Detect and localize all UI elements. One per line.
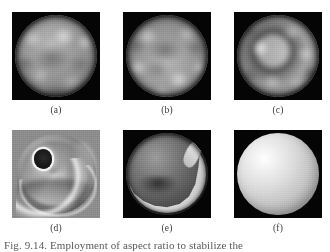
panel-f-disc	[237, 133, 319, 215]
figure-panel-d	[12, 130, 100, 218]
panel-e-soft-edge	[126, 133, 208, 215]
panel-a-soft-edge	[15, 15, 97, 97]
panel-label-c: (c)	[234, 105, 322, 116]
panel-f-rim-shadow	[237, 133, 319, 215]
figure-panel-a	[12, 12, 100, 100]
panel-b-image	[123, 12, 211, 100]
panel-c-soft-edge	[237, 15, 319, 97]
panel-c-image	[234, 12, 322, 100]
panel-d-image	[12, 130, 100, 218]
panel-d-noise-grain	[12, 130, 100, 218]
panel-label-f: (f)	[234, 223, 322, 234]
panel-b-soft-edge	[126, 15, 208, 97]
panel-f-image	[234, 130, 322, 218]
figure-panel-b	[123, 12, 211, 100]
panel-a-disc	[15, 15, 97, 97]
panel-d-surface	[12, 130, 100, 218]
figure-panel-e	[123, 130, 211, 218]
panel-e-image	[123, 130, 211, 218]
panel-label-e: (e)	[123, 223, 211, 234]
panel-e-disc	[126, 133, 208, 215]
panel-label-d: (d)	[12, 223, 100, 234]
figure-caption: Fig. 9.14. Employment of aspect ratio to…	[4, 239, 326, 252]
panel-label-a: (a)	[12, 105, 100, 116]
figure-panel-f	[234, 130, 322, 218]
panel-c-disc	[237, 15, 319, 97]
panel-b-disc	[126, 15, 208, 97]
panel-a-image	[12, 12, 100, 100]
panel-label-b: (b)	[123, 105, 211, 116]
figure-panel-c	[234, 12, 322, 100]
